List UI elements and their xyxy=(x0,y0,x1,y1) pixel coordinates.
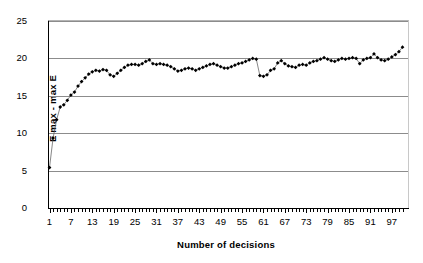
series-line xyxy=(50,47,403,167)
x-tick-major xyxy=(135,208,136,213)
x-tick-minor xyxy=(253,208,254,212)
x-tick-major xyxy=(92,208,93,213)
x-tick-minor xyxy=(142,208,143,212)
data-point-marker xyxy=(301,62,305,66)
x-tick-minor xyxy=(121,208,122,212)
data-point-marker xyxy=(386,57,390,61)
x-tick-label: 49 xyxy=(209,216,233,227)
x-tick-minor xyxy=(367,208,368,212)
x-tick-label: 61 xyxy=(251,216,275,227)
data-point-marker xyxy=(326,57,330,61)
x-tick-label: 85 xyxy=(337,216,361,227)
data-point-marker xyxy=(340,57,344,61)
x-tick-minor xyxy=(310,208,311,212)
data-point-marker xyxy=(333,59,337,63)
x-tick-minor xyxy=(360,208,361,212)
x-tick-major xyxy=(263,208,264,213)
data-point-marker xyxy=(98,69,102,73)
data-point-marker xyxy=(226,66,230,70)
data-point-marker xyxy=(222,66,226,70)
x-tick-minor xyxy=(271,208,272,212)
x-tick-label: 7 xyxy=(59,216,83,227)
data-point-marker xyxy=(251,57,255,61)
x-tick-minor xyxy=(385,208,386,212)
data-point-marker xyxy=(329,59,333,63)
x-tick-label: 1 xyxy=(38,216,62,227)
x-tick-minor xyxy=(288,208,289,212)
x-tick-major xyxy=(285,208,286,213)
x-tick-minor xyxy=(274,208,275,212)
data-point-marker xyxy=(176,69,180,73)
data-point-marker xyxy=(315,59,319,63)
x-tick-major xyxy=(114,208,115,213)
x-tick-label: 97 xyxy=(380,216,404,227)
x-tick-minor xyxy=(238,208,239,212)
data-point-marker xyxy=(51,136,55,140)
x-tick-minor xyxy=(228,208,229,212)
x-tick-label: 67 xyxy=(273,216,297,227)
data-point-marker xyxy=(322,56,326,60)
x-tick-minor xyxy=(124,208,125,212)
x-tick-major xyxy=(242,208,243,213)
x-tick-minor xyxy=(85,208,86,212)
x-tick-minor xyxy=(99,208,100,212)
x-tick-minor xyxy=(74,208,75,212)
x-tick-label: 55 xyxy=(230,216,254,227)
x-tick-minor xyxy=(149,208,150,212)
x-tick-minor xyxy=(185,208,186,212)
x-tick-label: 73 xyxy=(294,216,318,227)
x-tick-minor xyxy=(181,208,182,212)
data-point-marker xyxy=(311,59,315,63)
data-point-marker xyxy=(383,59,387,63)
plot-area: 0510152025 17131925313743495561677379859… xyxy=(48,20,409,208)
y-tick-label: 0 xyxy=(1,202,27,213)
x-tick-major xyxy=(392,208,393,213)
data-point-marker xyxy=(240,61,244,65)
x-tick-minor xyxy=(246,208,247,212)
data-point-marker xyxy=(308,61,312,65)
data-point-marker xyxy=(254,57,258,61)
data-point-marker xyxy=(201,65,205,69)
data-point-marker xyxy=(187,66,191,70)
x-tick-minor xyxy=(235,208,236,212)
data-point-marker xyxy=(165,63,169,67)
x-tick-minor xyxy=(281,208,282,212)
x-tick-minor xyxy=(192,208,193,212)
x-tick-major xyxy=(349,208,350,213)
data-point-marker xyxy=(390,55,394,59)
y-tick-label: 20 xyxy=(1,52,27,63)
data-point-marker xyxy=(126,63,130,67)
data-point-marker xyxy=(94,68,98,72)
x-tick-minor xyxy=(256,208,257,212)
x-tick-minor xyxy=(89,208,90,212)
x-tick-minor xyxy=(278,208,279,212)
x-tick-minor xyxy=(335,208,336,212)
x-tick-minor xyxy=(196,208,197,212)
data-point-marker xyxy=(347,57,351,61)
data-point-marker xyxy=(344,57,348,61)
x-tick-label: 79 xyxy=(316,216,340,227)
x-tick-minor xyxy=(224,208,225,212)
x-tick-minor xyxy=(53,208,54,212)
data-point-marker xyxy=(304,63,308,67)
x-tick-minor xyxy=(342,208,343,212)
data-point-marker xyxy=(294,65,298,69)
x-tick-minor xyxy=(320,208,321,212)
chart-figure: E max - max E Number of decisions 051015… xyxy=(0,0,423,263)
x-tick-minor xyxy=(203,208,204,212)
x-axis-title: Number of decisions xyxy=(45,239,407,250)
x-tick-minor xyxy=(153,208,154,212)
y-tick-label: 25 xyxy=(1,15,27,26)
data-point-marker xyxy=(162,62,166,66)
data-point-marker xyxy=(204,64,208,68)
x-tick-minor xyxy=(381,208,382,212)
x-tick-minor xyxy=(296,208,297,212)
data-point-marker xyxy=(101,68,105,72)
x-tick-major xyxy=(221,208,222,213)
x-tick-minor xyxy=(103,208,104,212)
x-tick-label: 31 xyxy=(144,216,168,227)
data-point-marker xyxy=(155,62,159,66)
x-tick-minor xyxy=(110,208,111,212)
x-tick-minor xyxy=(313,208,314,212)
x-tick-minor xyxy=(78,208,79,212)
